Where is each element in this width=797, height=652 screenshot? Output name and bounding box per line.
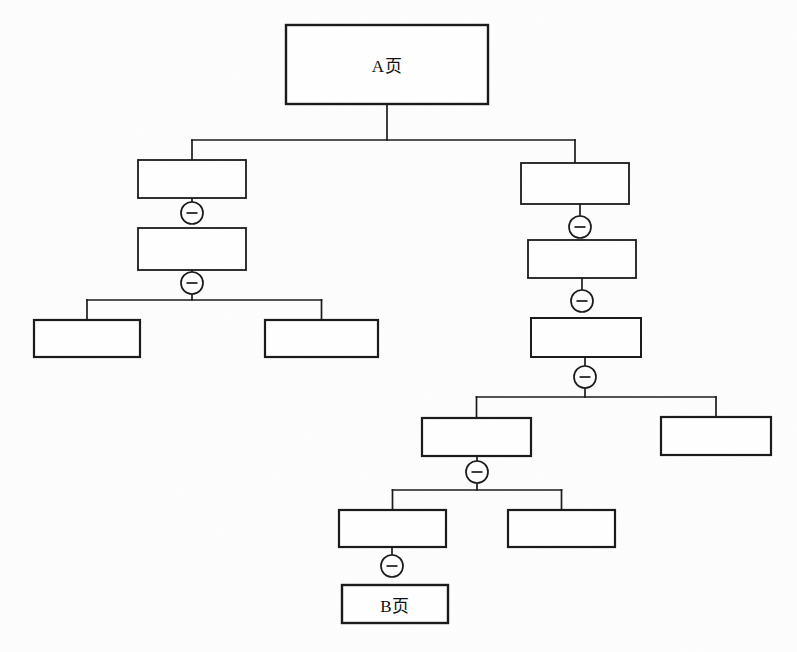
collapse-toggle[interactable] — [466, 461, 488, 483]
collapse-toggle[interactable] — [181, 272, 203, 294]
collapse-toggle[interactable] — [569, 216, 591, 238]
node-box[interactable] — [528, 240, 636, 278]
node-box[interactable] — [138, 160, 246, 198]
node-box[interactable] — [138, 228, 246, 270]
diagram-canvas: A页B页 — [0, 0, 797, 652]
node-box[interactable] — [661, 417, 771, 455]
node-box[interactable] — [339, 510, 446, 547]
collapse-toggle[interactable] — [381, 555, 403, 577]
collapse-toggle[interactable] — [571, 290, 593, 312]
node-box-layer — [34, 25, 771, 623]
node-box-B页[interactable] — [342, 585, 448, 623]
node-box[interactable] — [508, 510, 615, 547]
node-box[interactable] — [265, 320, 378, 357]
collapse-toggle[interactable] — [574, 366, 596, 388]
node-box[interactable] — [34, 320, 140, 357]
node-box[interactable] — [422, 418, 531, 456]
node-box[interactable] — [521, 163, 629, 204]
tree-diagram — [0, 0, 797, 652]
node-box-A页[interactable] — [286, 25, 488, 104]
collapse-toggle[interactable] — [181, 202, 203, 224]
node-box[interactable] — [531, 318, 641, 357]
